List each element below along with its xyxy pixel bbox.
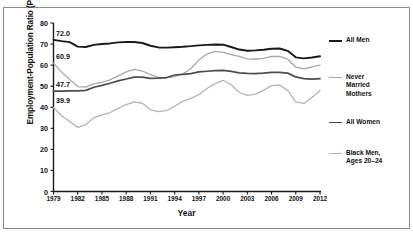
legend-label: Black Men, Ages 20–24	[346, 149, 382, 166]
series-line-all-women	[54, 70, 321, 91]
legend-swatch-icon	[329, 77, 342, 78]
series-line-never-married-mothers	[54, 51, 321, 87]
legend-label: All Women	[346, 118, 380, 126]
series-line-all-men	[54, 40, 321, 59]
legend-label: All Men	[346, 36, 369, 44]
legend-swatch-icon	[329, 122, 342, 123]
legend-item-1[interactable]: Never Married Mothers	[329, 73, 372, 98]
legend-item-0[interactable]: All Men	[329, 36, 369, 44]
legend-item-2[interactable]: All Women	[329, 118, 380, 126]
legend-item-3[interactable]: Black Men, Ages 20–24	[329, 149, 382, 166]
legend-swatch-icon	[329, 153, 342, 154]
legend-swatch-icon	[329, 40, 342, 42]
legend-label: Never Married Mothers	[346, 73, 372, 98]
data-series	[54, 40, 321, 127]
chart-figure: Employment-Population Ratio (Percent) Ye…	[0, 0, 413, 235]
